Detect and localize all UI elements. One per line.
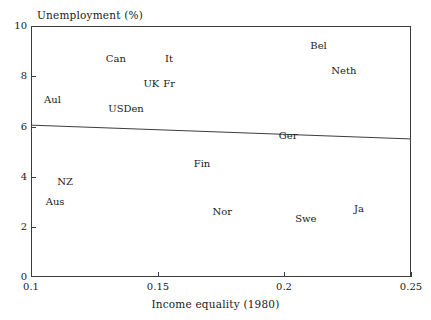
- data-point-label: US: [108, 104, 123, 114]
- x-axis-title: Income equality (1980): [0, 298, 431, 310]
- y-tick-label-6: 6: [1, 122, 27, 132]
- x-tick-mark-0-1: [31, 272, 32, 277]
- plot-area: [31, 26, 411, 277]
- x-tick-mark-0-15: [158, 272, 159, 277]
- x-tick-mark-0-25: [411, 272, 412, 277]
- scatter-plot-figure: Unemployment (%) 10 8 6 4 2 0 0.1 0.15 0…: [0, 0, 431, 320]
- y-tick-mark-4: [31, 177, 36, 178]
- data-point-label: NZ: [57, 177, 73, 187]
- data-point-label: Aus: [46, 197, 65, 207]
- y-tick-label-8: 8: [1, 71, 27, 81]
- y-tick-label-2: 2: [1, 222, 27, 232]
- data-point-label: Bel: [310, 41, 326, 51]
- data-point-label: Ger: [279, 131, 298, 141]
- x-tick-label-0-2: 0.2: [260, 282, 308, 292]
- y-tick-label-4: 4: [1, 172, 27, 182]
- data-point-label: Swe: [295, 214, 316, 224]
- x-tick-label-0-15: 0.15: [134, 282, 182, 292]
- y-tick-mark-8: [31, 76, 36, 77]
- data-point-label: Fin: [194, 159, 211, 169]
- data-point-label: Neth: [331, 66, 356, 76]
- y-tick-mark-6: [31, 127, 36, 128]
- y-axis-title: Unemployment (%): [37, 9, 143, 21]
- x-tick-mark-0-2: [284, 272, 285, 277]
- x-tick-label-0-25: 0.25: [387, 282, 431, 292]
- data-point-label: Aul: [44, 95, 61, 105]
- data-point-label: Fr: [163, 79, 175, 89]
- data-point-label: It: [165, 54, 173, 64]
- data-point-label: Nor: [212, 207, 232, 217]
- y-tick-label-10: 10: [1, 21, 27, 31]
- data-point-label: Den: [123, 104, 143, 114]
- y-tick-mark-10: [31, 26, 36, 27]
- data-point-label: UK: [143, 79, 159, 89]
- y-tick-mark-2: [31, 227, 36, 228]
- x-tick-label-0-1: 0.1: [7, 282, 55, 292]
- data-point-label: Can: [106, 54, 126, 64]
- data-point-label: Ja: [354, 204, 364, 214]
